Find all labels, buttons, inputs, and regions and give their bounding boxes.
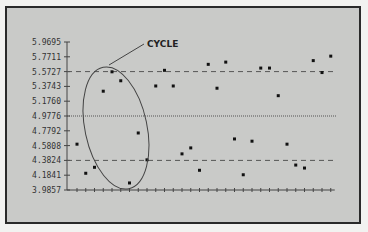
control-chart: 5.96955.77115.57275.37435.17604.97764.77… xyxy=(0,0,368,232)
data-point xyxy=(294,164,297,167)
data-point xyxy=(181,152,184,155)
data-point xyxy=(207,63,210,66)
y-tick-label: 3.9857 xyxy=(32,186,61,195)
data-point xyxy=(84,172,87,175)
y-tick-label: 5.5727 xyxy=(32,68,61,77)
data-point xyxy=(76,143,79,146)
cycle-label: CYCLE xyxy=(147,39,178,49)
data-point xyxy=(119,79,122,82)
y-tick-label: 4.9776 xyxy=(32,112,61,121)
data-point xyxy=(111,70,114,73)
y-tick-label: 5.3743 xyxy=(32,82,61,91)
y-axis: 5.96955.77115.57275.37435.17604.97764.77… xyxy=(32,38,70,195)
data-point xyxy=(242,173,245,176)
y-tick-label: 5.7711 xyxy=(32,53,61,62)
data-point xyxy=(329,55,332,58)
data-point xyxy=(198,169,201,172)
data-point xyxy=(251,140,254,143)
y-tick-label: 4.1841 xyxy=(32,171,61,180)
reference-lines xyxy=(67,72,336,161)
cycle-ellipse xyxy=(73,61,159,195)
data-point xyxy=(102,90,105,93)
data-point xyxy=(277,94,280,97)
data-point xyxy=(189,146,192,149)
y-tick-label: 4.5808 xyxy=(32,142,61,151)
data-point xyxy=(93,166,96,169)
y-tick-label: 4.7792 xyxy=(32,127,61,136)
data-point xyxy=(259,67,262,70)
data-point xyxy=(224,61,227,64)
y-tick-label: 5.1760 xyxy=(32,97,61,106)
data-point xyxy=(216,87,219,90)
cycle-pointer-line xyxy=(109,44,144,65)
x-axis xyxy=(67,188,335,192)
data-point xyxy=(233,137,236,140)
data-point xyxy=(321,71,324,74)
y-tick-label: 4.3824 xyxy=(32,156,61,165)
data-point xyxy=(172,84,175,87)
data-point xyxy=(163,69,166,72)
data-points xyxy=(76,55,333,185)
data-point xyxy=(154,84,157,87)
data-point xyxy=(137,131,140,134)
cycle-annotation: CYCLE xyxy=(73,39,179,195)
y-tick-label: 5.9695 xyxy=(32,38,61,47)
data-point xyxy=(128,181,131,184)
data-point xyxy=(312,59,315,62)
data-point xyxy=(268,67,271,70)
data-point xyxy=(303,167,306,170)
data-point xyxy=(286,143,289,146)
